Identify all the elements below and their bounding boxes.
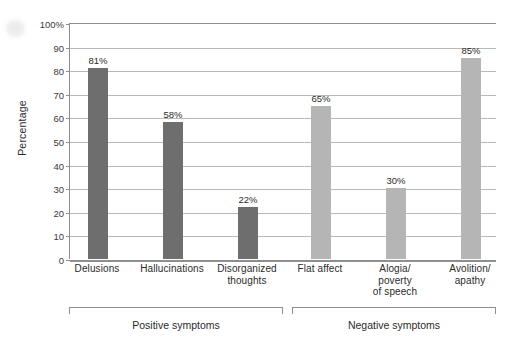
- gridline-30: [70, 189, 496, 190]
- bar-value-label-flat-affect: 65%: [311, 93, 330, 104]
- y-axis-tick-mark-100: [66, 24, 70, 25]
- y-axis-tick-mark-80: [66, 71, 70, 72]
- gridline-20: [70, 213, 496, 214]
- bar-value-label-alogia-poverty-of-speech: 30%: [386, 175, 405, 186]
- y-axis-tick-20: 20: [53, 207, 64, 218]
- y-axis-tick-80: 80: [53, 66, 64, 77]
- y-axis-tick-mark-10: [66, 236, 70, 237]
- gridline-10: [70, 236, 496, 237]
- y-axis-tick-10: 10: [53, 231, 64, 242]
- group-label-positive-symptoms: Positive symptoms: [69, 319, 283, 331]
- gridline-60: [70, 118, 496, 119]
- gridline-80: [70, 71, 496, 72]
- y-axis-tick-mark-30: [66, 189, 70, 190]
- y-axis-tick-40: 40: [53, 160, 64, 171]
- y-axis-tick-30: 30: [53, 184, 64, 195]
- gridline-50: [70, 142, 496, 143]
- y-axis-tick-mark-90: [66, 48, 70, 49]
- group-label-negative-symptoms: Negative symptoms: [292, 319, 496, 331]
- bar-hallucinations: 58%: [163, 122, 183, 259]
- x-axis-label-avolition-apathy: Avolition/apathy: [410, 263, 514, 286]
- bar-disorganized-thoughts: 22%: [238, 207, 258, 259]
- gridline-0: [70, 260, 496, 262]
- gridline-70: [70, 95, 496, 96]
- gridline-40: [70, 166, 496, 167]
- bar-value-label-avolition-apathy: 85%: [461, 45, 480, 56]
- y-axis-tick-mark-20: [66, 213, 70, 214]
- bar-value-label-delusions: 81%: [88, 55, 107, 66]
- y-axis-tick-50: 50: [53, 137, 64, 148]
- group-bracket-negative-symptoms: [292, 307, 496, 314]
- y-axis-tick-mark-40: [66, 166, 70, 167]
- scan-blemish-artifact: [6, 20, 25, 37]
- bar-avolition-apathy: 85%: [461, 58, 481, 259]
- plot-area: 100%908070605040302010081%58%22%65%30%85…: [69, 23, 496, 259]
- y-axis-tick-mark-60: [66, 118, 70, 119]
- y-axis-tick-90: 90: [53, 42, 64, 53]
- gridline-90: [70, 48, 496, 49]
- bar-value-label-disorganized-thoughts: 22%: [238, 194, 257, 205]
- y-axis-tick-60: 60: [53, 113, 64, 124]
- y-axis-tick-100: 100%: [40, 19, 64, 30]
- y-axis-title: Percentage: [16, 100, 28, 156]
- y-axis-tick-70: 70: [53, 89, 64, 100]
- y-axis-tick-mark-70: [66, 95, 70, 96]
- group-bracket-positive-symptoms: [69, 307, 283, 314]
- bar-flat-affect: 65%: [311, 106, 331, 259]
- y-axis-tick-mark-0: [66, 260, 70, 261]
- bar-value-label-hallucinations: 58%: [163, 109, 182, 120]
- y-axis-tick-mark-50: [66, 142, 70, 143]
- bar-delusions: 81%: [88, 68, 108, 259]
- bar-alogia-poverty-of-speech: 30%: [386, 188, 406, 259]
- bar-chart: Percentage 100%908070605040302010081%58%…: [0, 0, 514, 348]
